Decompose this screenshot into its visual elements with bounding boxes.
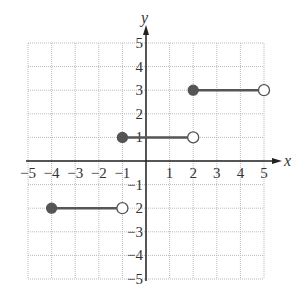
x-tick-label: −5 [20,165,36,181]
x-tick-label: 3 [213,165,221,181]
x-tick-label: −4 [44,165,60,181]
y-tick-label: 5 [136,35,144,51]
closed-endpoint [188,85,198,95]
closed-endpoint [117,132,127,142]
open-endpoint [259,85,270,96]
y-axis-arrow-icon [143,25,149,35]
y-tick-label: −5 [127,271,143,287]
open-endpoint [188,132,199,143]
x-axis-arrow-icon [272,158,282,164]
x-axis-label: x [283,152,291,169]
x-tick-label: 1 [166,165,174,181]
x-tick-label: 2 [189,165,197,181]
x-tick-label: −2 [91,165,107,181]
y-tick-label: 3 [136,82,144,98]
y-tick-label: 2 [136,106,144,122]
x-tick-label: −3 [67,165,83,181]
x-tick-label: 4 [237,165,245,181]
step-function-graph: xy −5−4−3−2−11234554321−12−3−4−5 [0,0,298,298]
y-axis-label: y [139,9,149,27]
plot-segments [47,85,270,214]
axes: xy [26,9,291,281]
y-tick-label: −1 [127,177,143,193]
y-tick-label: −4 [127,247,143,263]
closed-endpoint [47,203,57,213]
y-tick-label: 4 [136,59,144,75]
y-tick-label: −3 [127,224,143,240]
y-tick-label: 2 [136,200,144,216]
x-tick-label: 5 [260,165,268,181]
open-endpoint [117,203,128,214]
